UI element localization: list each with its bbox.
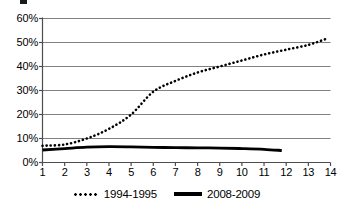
x-axis-tick-label: 3 xyxy=(77,167,97,178)
legend-label: 2008-2009 xyxy=(207,188,260,200)
x-axis-tick-label: 8 xyxy=(188,167,208,178)
x-axis-tick-label: 5 xyxy=(121,167,141,178)
legend-item-1994-1995: 1994-1995 xyxy=(73,188,157,200)
x-axis-tick-label: 9 xyxy=(210,167,230,178)
legend-label: 1994-1995 xyxy=(104,188,157,200)
x-axis-tick-label: 10 xyxy=(232,167,252,178)
x-axis-tick-label: 6 xyxy=(143,167,163,178)
x-axis-tick-label: 7 xyxy=(165,167,185,178)
dotted-line-key-icon xyxy=(73,193,99,196)
solid-line-key-icon xyxy=(174,192,202,196)
x-axis-tick-label: 4 xyxy=(99,167,119,178)
x-axis-tick-label: 11 xyxy=(254,167,274,178)
x-axis-tick-label: 12 xyxy=(276,167,296,178)
x-axis-tick-label: 1 xyxy=(33,167,53,178)
x-axis-tick-label: 13 xyxy=(298,167,318,178)
legend-item-2008-2009: 2008-2009 xyxy=(174,188,260,200)
x-axis-tick-label: 2 xyxy=(55,167,75,178)
x-axis-tick-label: 14 xyxy=(321,167,341,178)
chart-legend: 1994-1995 2008-2009 xyxy=(0,185,333,203)
